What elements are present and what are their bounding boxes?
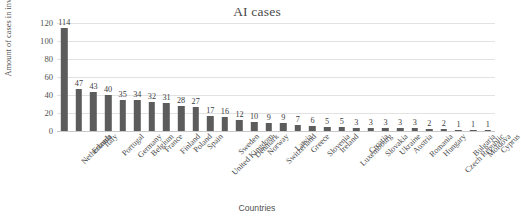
bar-slot: 9 xyxy=(276,23,291,131)
bar-value-label: 2 xyxy=(427,119,431,128)
y-tick-label: 60 xyxy=(31,73,53,81)
bar-slot: 2 xyxy=(437,23,452,131)
bar-value-label: 3 xyxy=(413,118,417,127)
chart-title: AI cases xyxy=(0,4,514,20)
bar-slot: 17 xyxy=(203,23,218,131)
x-axis-category-labels: NetherlandsEstoniaItalyPortugalGermanyBe… xyxy=(57,132,495,202)
bar[interactable] xyxy=(90,92,96,131)
bar-value-label: 27 xyxy=(192,97,200,106)
bar[interactable] xyxy=(251,122,257,131)
bar[interactable] xyxy=(441,129,447,131)
bar-value-label: 3 xyxy=(398,118,402,127)
bar-slot: 7 xyxy=(291,23,306,131)
bar-slot: 1 xyxy=(466,23,481,131)
y-tick-label: 80 xyxy=(31,55,53,63)
bar[interactable] xyxy=(382,128,388,131)
bar-slot: 1 xyxy=(451,23,466,131)
bar-slot: 3 xyxy=(364,23,379,131)
bar-value-label: 2 xyxy=(442,119,446,128)
bar-slot: 5 xyxy=(320,23,335,131)
bar-slot: 114 xyxy=(57,23,72,131)
y-axis-title: Amount of cases in inventory xyxy=(0,0,18,87)
bar-value-label: 3 xyxy=(383,118,387,127)
bar-slot: 43 xyxy=(86,23,101,131)
y-axis-tick-labels: 020406080100120 xyxy=(29,23,53,131)
bar-value-label: 9 xyxy=(281,113,285,122)
bar-value-label: 5 xyxy=(340,117,344,126)
bar-slot: 3 xyxy=(349,23,364,131)
bar[interactable] xyxy=(426,129,432,131)
bar-value-label: 3 xyxy=(369,118,373,127)
bar-slot: 16 xyxy=(218,23,233,131)
x-axis-title: Countries xyxy=(0,203,514,213)
bar[interactable] xyxy=(178,106,184,131)
bar[interactable] xyxy=(368,128,374,131)
bar-slot: 31 xyxy=(159,23,174,131)
bar[interactable] xyxy=(236,120,242,131)
bar[interactable] xyxy=(149,102,155,131)
bar-slot: 6 xyxy=(305,23,320,131)
bar-value-label: 40 xyxy=(104,85,112,94)
bar-slot: 3 xyxy=(378,23,393,131)
bar-slot: 2 xyxy=(422,23,437,131)
bar-value-label: 1 xyxy=(486,120,490,129)
bar-value-label: 12 xyxy=(235,110,243,119)
bar[interactable] xyxy=(76,89,82,131)
bar[interactable] xyxy=(61,28,67,131)
bar-value-label: 17 xyxy=(206,106,214,115)
bar-slot: 10 xyxy=(247,23,262,131)
y-tick-label: 100 xyxy=(31,37,53,45)
bar[interactable] xyxy=(324,127,330,132)
bar[interactable] xyxy=(119,100,125,132)
bar[interactable] xyxy=(353,128,359,131)
bar-value-label: 3 xyxy=(354,118,358,127)
bar-slot: 35 xyxy=(115,23,130,131)
bar-value-label: 9 xyxy=(267,113,271,122)
bar[interactable] xyxy=(484,130,490,131)
bar-value-label: 5 xyxy=(325,117,329,126)
bar[interactable] xyxy=(105,95,111,131)
bar[interactable] xyxy=(397,128,403,131)
bar-value-label: 47 xyxy=(75,79,83,88)
bar-value-label: 10 xyxy=(250,112,258,121)
bar[interactable] xyxy=(207,116,213,131)
bar-slot: 5 xyxy=(334,23,349,131)
bar[interactable] xyxy=(163,103,169,131)
bar-value-label: 34 xyxy=(133,90,141,99)
bar-value-label: 1 xyxy=(471,120,475,129)
bar-slot: 40 xyxy=(101,23,116,131)
bar[interactable] xyxy=(265,123,271,131)
y-tick-label: 20 xyxy=(31,109,53,117)
bar-value-label: 1 xyxy=(456,120,460,129)
bar[interactable] xyxy=(338,127,344,132)
bar-value-label: 16 xyxy=(221,107,229,116)
bar-slot: 1 xyxy=(480,23,495,131)
bar-slot: 9 xyxy=(261,23,276,131)
plot-area: 1144743403534323128271716121099765533333… xyxy=(57,23,495,131)
bar-slot: 12 xyxy=(232,23,247,131)
y-tick-label: 0 xyxy=(31,127,53,135)
bar-slot: 3 xyxy=(407,23,422,131)
y-tick-label: 40 xyxy=(31,91,53,99)
bar-value-label: 31 xyxy=(162,93,170,102)
bar-value-label: 28 xyxy=(177,96,185,105)
bar-value-label: 35 xyxy=(119,90,127,99)
bar[interactable] xyxy=(280,123,286,131)
bar[interactable] xyxy=(295,125,301,131)
bar[interactable] xyxy=(222,117,228,131)
bar-slot: 47 xyxy=(72,23,87,131)
bar-slot: 3 xyxy=(393,23,408,131)
bar[interactable] xyxy=(309,126,315,131)
bar-slot: 28 xyxy=(174,23,189,131)
bar-slot: 27 xyxy=(188,23,203,131)
bar[interactable] xyxy=(411,128,417,131)
bar-value-label: 32 xyxy=(148,92,156,101)
bar[interactable] xyxy=(470,130,476,131)
bar[interactable] xyxy=(134,100,140,131)
bar-value-label: 114 xyxy=(58,18,70,27)
bar[interactable] xyxy=(192,107,198,131)
bar-value-label: 6 xyxy=(310,116,314,125)
bar-slot: 34 xyxy=(130,23,145,131)
y-tick-label: 120 xyxy=(31,19,53,27)
